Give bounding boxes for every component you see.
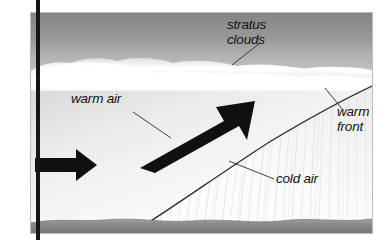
label-warm-air: warm air xyxy=(71,92,121,107)
label-cold-air: cold air xyxy=(276,172,318,187)
label-stratus-clouds: stratus clouds xyxy=(227,18,266,47)
page-binding-bar xyxy=(36,0,40,240)
diagram-canvas xyxy=(31,13,372,233)
label-warm-front: warm front xyxy=(337,105,369,134)
ground-band-icon xyxy=(31,219,372,233)
warm-front-diagram xyxy=(31,13,372,233)
